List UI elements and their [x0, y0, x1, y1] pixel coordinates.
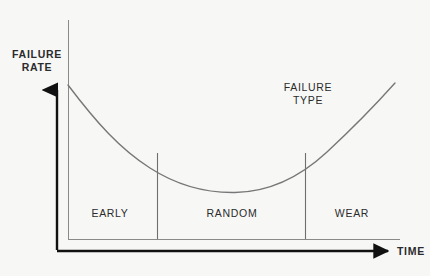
failure-type-annotation-line-2: TYPE	[272, 94, 344, 107]
y-axis-title: FAILURE RATE	[6, 48, 68, 74]
region-label-wear: WEAR	[320, 207, 384, 220]
chart-canvas	[0, 0, 430, 276]
bathtub-curve-figure: FAILURE RATE TIME FAILURE TYPE EARLY RAN…	[0, 0, 430, 276]
region-label-early: EARLY	[78, 207, 142, 220]
failure-type-annotation: FAILURE TYPE	[272, 81, 344, 107]
failure-type-annotation-line-1: FAILURE	[272, 81, 344, 94]
x-axis-title: TIME	[397, 245, 425, 258]
failure-rate-curve	[68, 83, 395, 193]
y-axis-title-line-2: RATE	[6, 61, 68, 74]
y-axis-title-line-1: FAILURE	[6, 48, 68, 61]
region-label-random: RANDOM	[192, 207, 272, 220]
